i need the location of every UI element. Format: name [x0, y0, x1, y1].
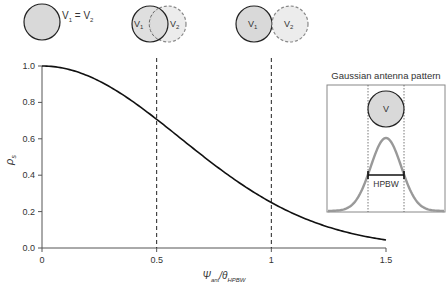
y-tick-label: 0.0: [22, 243, 35, 253]
y-tick-label: 0.6: [22, 134, 35, 144]
circle-label: V: [383, 104, 389, 114]
y-axis: 0.00.20.40.60.81.0: [22, 61, 42, 253]
y-tick-label: 0.8: [22, 97, 35, 107]
y-axis-title: ρs: [3, 155, 17, 166]
x-tick-label: 1: [269, 255, 274, 265]
y-tick-label: 0.4: [22, 170, 35, 180]
diagram-label: V1 = V2: [62, 10, 94, 23]
x-tick-label: 1.5: [380, 255, 393, 265]
volume-circle: [24, 4, 60, 40]
inset-gaussian-pattern: Gaussian antenna pattern V HPBW: [327, 70, 445, 212]
x-tick-label: 0: [39, 255, 44, 265]
y-tick-label: 0.2: [22, 207, 35, 217]
x-axis: 00.511.5: [39, 248, 392, 265]
inset-title: Gaussian antenna pattern: [331, 70, 440, 81]
x-axis-title: Ψant/θHPBW: [203, 270, 247, 283]
diagram-touching: V1 V2: [236, 6, 308, 42]
y-tick-label: 1.0: [22, 61, 35, 71]
chart-canvas: 0.00.20.40.60.81.0 00.511.5 ρs Ψant/θHPB…: [0, 0, 448, 287]
diagram-identical-volumes: V1 = V2: [24, 4, 94, 40]
diagram-partial-overlap: V1 V2: [132, 6, 186, 42]
hpbw-label: HPBW: [373, 179, 399, 189]
reference-lines: [157, 58, 272, 248]
x-tick-label: 0.5: [150, 255, 163, 265]
